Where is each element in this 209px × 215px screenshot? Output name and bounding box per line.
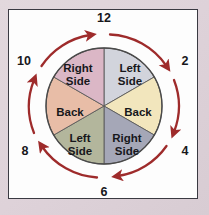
sector-label-6-to-8-line1: Left	[69, 132, 90, 144]
clock-number-2: 2	[182, 54, 189, 68]
clock-number-12: 12	[97, 11, 111, 25]
sector-label-8-to-10-line1: Back	[56, 106, 84, 118]
arrow-8-to-10	[29, 80, 34, 133]
sector-label-2-to-4-line1: Back	[124, 106, 152, 118]
clock-number-4: 4	[182, 144, 189, 158]
sector-label-10-to-12-line2: Side	[66, 75, 90, 87]
figure-stage: Left Side Back Right Side Left Side Back…	[0, 0, 209, 215]
arrow-2-to-4	[174, 80, 179, 132]
sector-label-4-to-6-line1: Right	[112, 132, 142, 144]
clock-number-6: 6	[101, 185, 108, 199]
clock-number-8: 8	[22, 144, 29, 158]
clock-number-10: 10	[17, 54, 31, 68]
sector-label-12-to-2-line2: Side	[118, 75, 142, 87]
sector-label-12-to-2-line1: Left	[119, 62, 140, 74]
rotation-clock-figure: Left Side Back Right Side Left Side Back…	[0, 0, 209, 215]
sector-label-4-to-6-line2: Side	[115, 145, 139, 157]
sector-label-10-to-12-line1: Right	[63, 62, 93, 74]
clock-diagram-svg: Left Side Back Right Side Left Side Back…	[0, 0, 209, 215]
sector-label-6-to-8-line2: Side	[68, 145, 92, 157]
